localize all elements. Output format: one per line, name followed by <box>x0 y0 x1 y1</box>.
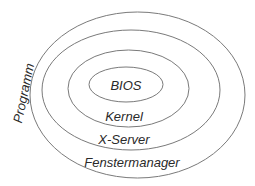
kernel-label: Kernel <box>105 109 144 124</box>
bios-label: BIOS <box>110 78 141 93</box>
fenstermanager-label: Fenstermanager <box>84 155 180 170</box>
x-server-label: X-Server <box>97 132 150 147</box>
layer-diagram: BIOS Kernel X-Server Fenstermanager Prog… <box>0 0 255 186</box>
programm-ring <box>30 12 245 178</box>
